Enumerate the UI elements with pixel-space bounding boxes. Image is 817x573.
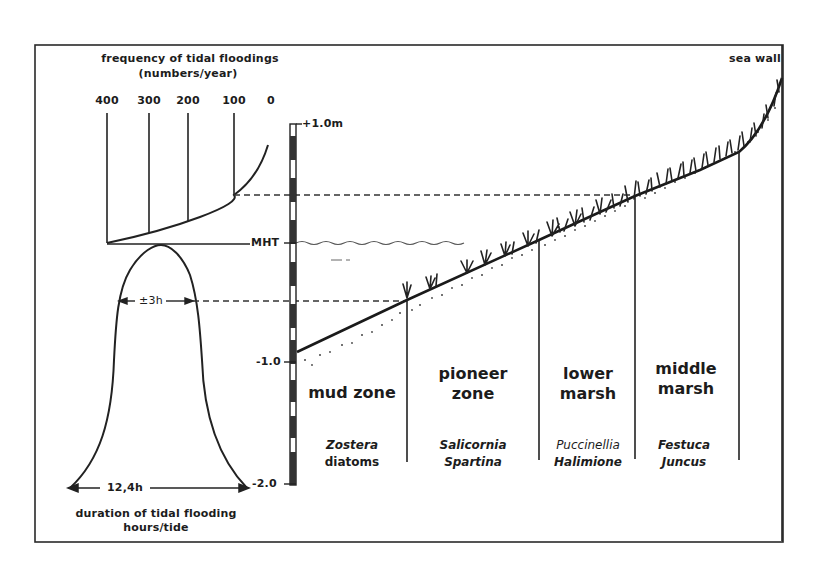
frequency-tick-0: 0 [267, 95, 275, 106]
species-zostera: Zostera [325, 437, 379, 454]
zone-lower-marsh-name-line1: lower [560, 364, 616, 384]
species-diatoms: diatoms [325, 454, 379, 471]
zone-lower-marsh-name-line2: marsh [560, 384, 616, 404]
duration-span-arrow [68, 484, 249, 492]
sediment-stipple [304, 107, 776, 366]
frequency-tick-400: 400 [95, 95, 119, 106]
zone-middle-marsh-name-line2: marsh [655, 379, 716, 399]
duration-span-label: 12,4h [104, 482, 146, 493]
three-hour-label: ±3h [137, 295, 165, 306]
gauge-label-minus-1: -1.0 [256, 356, 281, 367]
frequency-tick-100: 100 [222, 95, 246, 106]
species-spartina: Spartina [440, 454, 507, 471]
zone-pioneer-name-line2: zone [439, 384, 508, 404]
species-halimione: Halimione [554, 454, 622, 471]
frequency-tick-200: 200 [176, 95, 200, 106]
species-festuca: Festuca [658, 437, 710, 454]
zone-mud-name: mud zone [308, 383, 396, 403]
gauge-label-mht: MHT [250, 237, 280, 248]
duration-title-line2: hours/tide [123, 522, 189, 533]
gauge-label-plus-1m: +1.0m [302, 118, 343, 129]
mht-water-line [296, 242, 464, 245]
duration-bell-curve [70, 245, 247, 488]
frequency-tick-300: 300 [137, 95, 161, 106]
frequency-title-line1: frequency of tidal floodings [101, 53, 278, 64]
zone-middle-marsh-name: middle marsh [655, 359, 716, 399]
zone-pioneer-name-line1: pioneer [439, 364, 508, 384]
species-salicornia: Salicornia [440, 437, 507, 454]
gauge-label-minus-2: -2.0 [252, 478, 277, 489]
species-juncus: Juncus [658, 454, 710, 471]
zone-pioneer-name: pioneer zone [439, 364, 508, 404]
zone-lower-marsh-species: Puccinellia Halimione [554, 437, 622, 471]
zone-mud-name-line1: mud zone [308, 383, 396, 403]
frequency-title-line2: (numbers/year) [139, 68, 238, 79]
zone-lower-marsh-name: lower marsh [560, 364, 616, 404]
zone-mud-species: Zostera diatoms [325, 437, 379, 471]
zone-pioneer-species: Salicornia Spartina [440, 437, 507, 471]
sea-wall-label: sea wall [729, 53, 781, 64]
species-puccinellia: Puccinellia [554, 437, 622, 454]
zone-middle-marsh-species: Festuca Juncus [658, 437, 710, 471]
height-gauge [284, 124, 302, 485]
zone-middle-marsh-name-line1: middle [655, 359, 716, 379]
marsh-vegetation [403, 80, 779, 298]
frequency-tick-lines [107, 113, 234, 243]
duration-title-line1: duration of tidal flooding [75, 508, 236, 519]
